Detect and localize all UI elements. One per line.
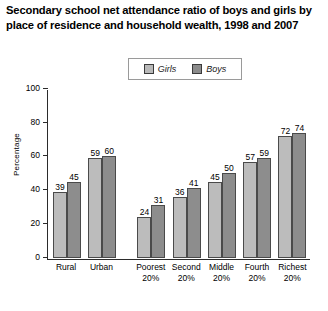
bar-value-label: 59 <box>259 148 268 158</box>
x-axis-label-line: Fourth <box>245 262 270 273</box>
y-axis-tick-label: 0 <box>35 252 40 262</box>
legend-label-boys: Boys <box>206 64 226 74</box>
y-axis-tick: 40 <box>43 189 48 190</box>
y-axis-tick: 60 <box>43 155 48 156</box>
bar-girls: 36 <box>173 197 187 258</box>
bar-boys: 50 <box>222 173 236 257</box>
page-title: Secondary school net attendance ratio of… <box>6 3 322 32</box>
bar-boys: 60 <box>102 156 116 257</box>
bar-group: 3641 <box>169 90 204 258</box>
chart-legend: Girls Boys <box>128 58 242 80</box>
x-axis-label-line: Urban <box>90 262 113 273</box>
bar-group: 2431 <box>134 90 169 258</box>
x-axis-label: Richest20% <box>275 262 310 283</box>
bar-girls: 59 <box>88 158 102 257</box>
legend-label-girls: Girls <box>158 64 177 74</box>
plot-area: 020406080100 394559602431364145505759727… <box>47 90 310 260</box>
bar-girls: 57 <box>243 162 257 258</box>
x-axis-labels: RuralUrbanPoorest20%Second20%Middle20%Fo… <box>48 262 310 283</box>
x-axis-label: Second20% <box>169 262 204 283</box>
x-axis-label: Poorest20% <box>133 262 168 283</box>
x-axis-label-line: 20% <box>142 273 159 284</box>
bar-group: 3945 <box>49 90 84 258</box>
bar-boys: 41 <box>187 188 201 257</box>
y-axis-tick: 20 <box>43 223 48 224</box>
bar-value-label: 50 <box>224 163 233 173</box>
y-axis-tick: 100 <box>43 88 48 89</box>
bar-group: 5960 <box>85 90 120 258</box>
x-axis-label-line: Poorest <box>136 262 165 273</box>
y-axis-tick: 80 <box>43 122 48 123</box>
y-axis-tick-label: 100 <box>26 83 40 93</box>
bar-boys: 31 <box>151 205 165 257</box>
girls-swatch <box>144 64 154 74</box>
y-axis-title: Percentage <box>12 115 21 195</box>
bar-value-label: 60 <box>105 146 114 156</box>
bar-group: 7274 <box>275 90 310 258</box>
bar-girls: 24 <box>137 217 151 257</box>
y-axis-tick-label: 20 <box>31 218 40 228</box>
bar-value-label: 31 <box>154 195 163 205</box>
bar-value-label: 39 <box>55 182 64 192</box>
x-axis-label-line: 20% <box>178 273 195 284</box>
bar-boys: 45 <box>67 182 81 258</box>
x-axis-label-line: 20% <box>284 273 301 284</box>
bar-value-label: 41 <box>189 178 198 188</box>
x-axis-label-line: Rural <box>56 262 76 273</box>
boys-swatch <box>192 64 202 74</box>
bar-group: 4550 <box>204 90 239 258</box>
bar-value-label: 24 <box>140 207 149 217</box>
y-axis-tick-label: 40 <box>31 184 40 194</box>
bar-value-label: 36 <box>175 187 184 197</box>
x-axis-label: Middle20% <box>204 262 239 283</box>
legend-item-boys: Boys <box>192 64 226 74</box>
bar-girls: 72 <box>278 136 292 257</box>
bar-value-label: 72 <box>281 126 290 136</box>
x-axis-label: Rural <box>48 262 83 283</box>
bar-boys: 74 <box>292 133 306 258</box>
bar-value-label: 57 <box>245 152 254 162</box>
bar-girls: 45 <box>208 182 222 258</box>
x-axis-label-line: Middle <box>209 262 234 273</box>
x-axis-label: Fourth20% <box>239 262 274 283</box>
x-axis-label-line: Richest <box>278 262 306 273</box>
x-axis-label-line: 20% <box>213 273 230 284</box>
bar-girls: 39 <box>53 192 67 258</box>
x-axis-label-line: Second <box>172 262 201 273</box>
bar-value-label: 74 <box>295 123 304 133</box>
y-axis-tick: 0 <box>43 257 48 258</box>
bar-group: 5759 <box>240 90 275 258</box>
bar-value-label: 45 <box>69 172 78 182</box>
legend-item-girls: Girls <box>144 64 177 74</box>
bar-boys: 59 <box>257 158 271 257</box>
x-axis-label: Urban <box>84 262 119 283</box>
x-axis-label-line: 20% <box>248 273 265 284</box>
y-axis-tick-label: 80 <box>31 117 40 127</box>
bar-value-label: 45 <box>210 172 219 182</box>
bar-value-label: 59 <box>91 148 100 158</box>
y-axis-tick-label: 60 <box>31 150 40 160</box>
chart-page: Secondary school net attendance ratio of… <box>0 0 328 311</box>
bar-groups: 3945596024313641455057597274 <box>49 90 310 258</box>
